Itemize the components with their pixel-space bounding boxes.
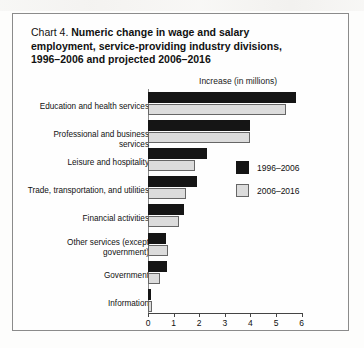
x-axis-tick: [276, 313, 277, 317]
chart-panel: Chart 4. Numeric change in wage and sala…: [12, 13, 349, 331]
legend-item-2006-2016: 2006–2016: [236, 182, 300, 199]
x-axis-tick-label: 2: [189, 318, 209, 328]
x-axis-tick: [302, 313, 303, 317]
bar-0: [148, 176, 197, 187]
bar-0: [148, 233, 166, 244]
bar-0: [148, 261, 167, 272]
x-axis-tick: [148, 313, 149, 317]
bar-1: [148, 273, 160, 284]
category-label: Financial activities: [24, 214, 149, 224]
x-axis-tick-label: 1: [164, 318, 184, 328]
category-label-line: Government: [24, 271, 149, 281]
legend-swatch-2006-2016: [236, 184, 249, 197]
scan-edge-artifact: [0, 0, 364, 11]
category-label-line: government): [24, 248, 149, 258]
bar-0: [148, 204, 184, 215]
x-axis-tick-label: 5: [266, 318, 286, 328]
bar-0: [148, 120, 250, 131]
category-label: Education and health services: [24, 102, 149, 112]
x-axis-tick: [225, 313, 226, 317]
x-axis-tick-label: 3: [215, 318, 235, 328]
category-label: Professional and business services: [24, 130, 149, 150]
bar-1: [148, 160, 195, 171]
bar-1: [148, 104, 286, 115]
bar-0: [148, 92, 296, 103]
bar-1: [148, 216, 179, 227]
category-label-line: Financial activities: [24, 214, 149, 224]
bar-0: [148, 289, 151, 300]
x-axis-tick-label: 4: [240, 318, 260, 328]
category-label-line: Information: [24, 299, 149, 309]
x-axis-tick-label: 0: [138, 318, 158, 328]
legend-label-2006-2016: 2006–2016: [257, 186, 300, 196]
category-label: Information: [24, 299, 149, 309]
category-label-line: Professional and business services: [24, 130, 149, 150]
category-label-line: Education and health services: [24, 102, 149, 112]
legend-swatch-1996-2006: [236, 161, 249, 174]
category-label-line: Trade, transportation, and utilities: [24, 186, 149, 196]
legend-label-1996-2006: 1996–2006: [257, 163, 300, 173]
bar-1: [148, 188, 186, 199]
bar-1: [148, 301, 152, 312]
category-label-line: Other services (except: [24, 238, 149, 248]
category-label: Other services (exceptgovernment): [24, 238, 149, 258]
legend-item-1996-2006: 1996–2006: [236, 159, 300, 176]
bar-1: [148, 245, 168, 256]
x-axis-tick: [250, 313, 251, 317]
category-label: Trade, transportation, and utilities: [24, 186, 149, 196]
chart-legend: 1996–2006 2006–2016: [236, 159, 300, 205]
bar-0: [148, 148, 207, 159]
x-axis-tick: [174, 313, 175, 317]
x-axis-tick-label: 6: [292, 318, 312, 328]
category-label: Government: [24, 271, 149, 281]
category-label-line: Leisure and hospitality: [24, 158, 149, 168]
x-axis-tick: [199, 313, 200, 317]
bar-1: [148, 132, 250, 143]
category-label: Leisure and hospitality: [24, 158, 149, 168]
